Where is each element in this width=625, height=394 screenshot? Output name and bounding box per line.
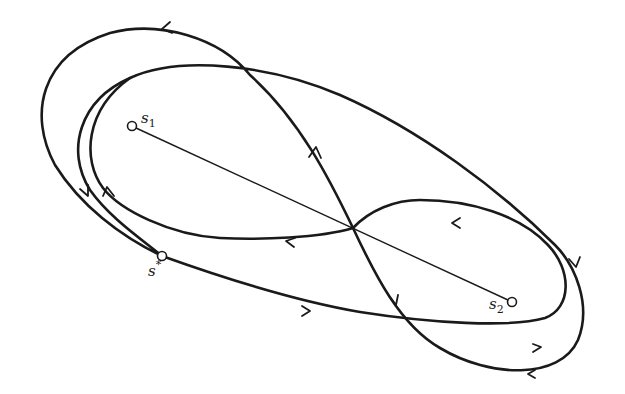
arrow-left-inner-icon <box>286 238 295 247</box>
arrow-bottom-left-icon <box>528 370 535 378</box>
arrow-lower-left-icon <box>302 306 310 316</box>
segment-s1-s2 <box>136 128 508 300</box>
trajectory-diagram: s1 s2 s* <box>0 0 625 394</box>
inner-loop-curve <box>90 78 565 323</box>
label-s-star: s* <box>148 258 162 280</box>
label-s2: s2 <box>489 295 504 316</box>
point-s2 <box>508 298 517 307</box>
label-s1: s1 <box>141 109 156 130</box>
outer-loop-curve <box>42 29 583 371</box>
point-s1 <box>128 122 137 131</box>
arrow-right-top-icon <box>452 218 460 228</box>
arrow-bottom-right-icon <box>533 344 541 352</box>
